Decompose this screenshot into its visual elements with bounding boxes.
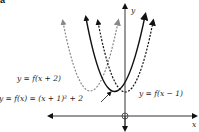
curve-f-x-left-arrow [86,18,113,91]
label-f-x-plus-2: y = f(x + 2) [16,74,61,83]
label-pointer [101,93,110,102]
x-axis-label: x [192,120,197,129]
label-f-x-minus-1: y = f(x − 1) [138,89,183,98]
axes: y x [50,6,197,129]
curve-f-x-plus-2 [63,22,118,91]
part-label: a [0,0,6,5]
curve-f-x-minus-1-left-arrow [98,22,125,91]
label-f-x: y = f(x) = (x + 1)² + 2 [0,94,83,103]
graph-canvas: a y x y = f(x + 2) y = f(x) = (x + 1)² +… [0,0,199,132]
curve-f-x-plus-2-left-arrow [63,22,90,91]
y-axis-label: y [130,6,136,15]
